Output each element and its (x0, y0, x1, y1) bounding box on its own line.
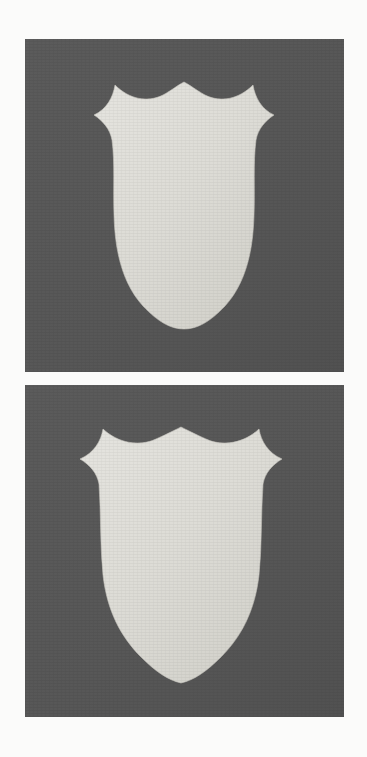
rounded-base-shield-panel[interactable]: rounded-base-shield Heraldic escutcheon … (25, 39, 344, 372)
page-root: rounded-base-shield Heraldic escutcheon … (0, 0, 367, 757)
rounded-base-shield-canvas (25, 39, 344, 372)
pointed-base-shield-canvas (25, 385, 344, 717)
pointed-base-shield-panel[interactable]: pointed-base-shield Heraldic escutcheon … (25, 385, 344, 717)
